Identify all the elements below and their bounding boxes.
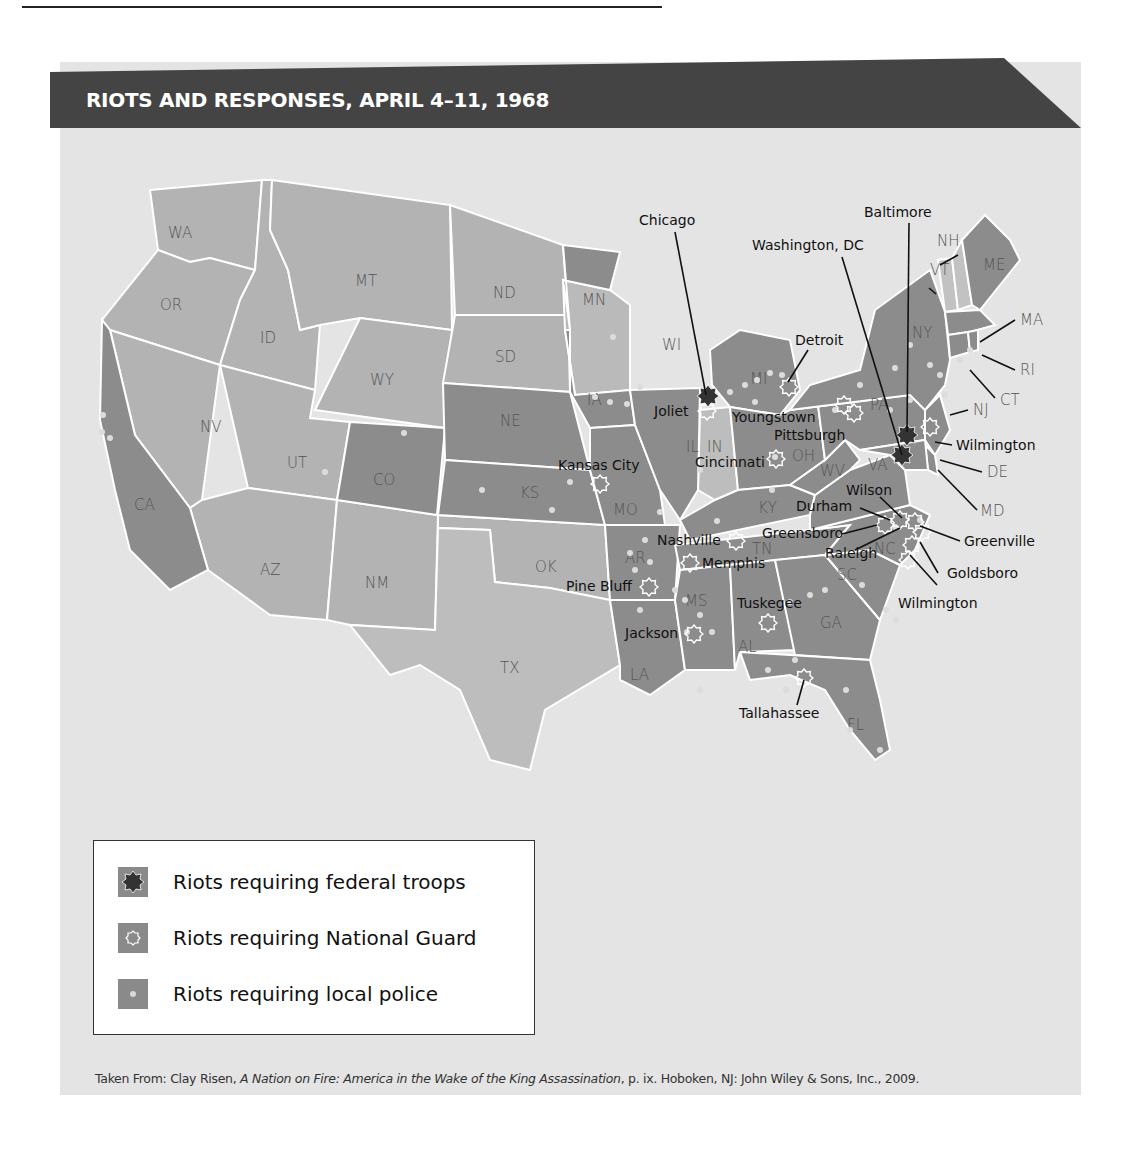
svg-text:NV: NV	[200, 418, 221, 436]
state-MS	[675, 565, 735, 670]
state-CT	[948, 332, 970, 358]
label-tallahassee: Tallahassee	[738, 705, 819, 721]
source-prefix: Taken From: Clay Risen,	[95, 1071, 240, 1086]
svg-text:MD: MD	[980, 502, 1005, 520]
svg-text:LA: LA	[630, 666, 649, 684]
state-AZ	[190, 488, 337, 620]
svg-text:GA: GA	[820, 614, 842, 632]
source-book-title: A Nation on Fire: America in the Wake of…	[240, 1071, 621, 1086]
legend-item-national-guard: Riots requiring National Guard	[118, 923, 477, 953]
state-CO	[337, 422, 445, 515]
svg-text:NE: NE	[500, 412, 521, 430]
svg-text:KY: KY	[758, 499, 777, 517]
label-pittsburgh: Pittsburgh	[774, 427, 845, 443]
label-pine-bluff: Pine Bluff	[566, 578, 632, 594]
us-map: WA OR CA ID NV MT WY UT CO AZ NM ND SD N…	[90, 170, 1070, 784]
label-goldsboro: Goldsboro	[947, 565, 1018, 581]
svg-text:VT: VT	[930, 261, 949, 279]
local-police-dot-icon	[118, 979, 148, 1009]
svg-text:SD: SD	[495, 348, 516, 366]
legend-item-federal-troops: Riots requiring federal troops	[118, 867, 466, 897]
label-kansas-city: Kansas City	[558, 457, 639, 473]
label-nashville: Nashville	[657, 532, 721, 548]
page-top-rule	[22, 6, 662, 8]
svg-text:NC: NC	[874, 540, 896, 558]
legend-label: Riots requiring federal troops	[173, 870, 466, 894]
label-tuskegee: Tuskegee	[736, 595, 802, 611]
svg-text:MO: MO	[613, 501, 638, 519]
svg-text:WV: WV	[820, 462, 845, 480]
state-NM	[327, 500, 438, 630]
svg-text:TX: TX	[500, 659, 519, 677]
svg-text:OH: OH	[792, 447, 815, 465]
svg-text:NH: NH	[937, 232, 960, 250]
label-greensboro: Greensboro	[762, 525, 843, 541]
label-raleigh: Raleigh	[825, 545, 877, 561]
svg-text:RI: RI	[1020, 361, 1035, 379]
label-chicago: Chicago	[639, 212, 695, 228]
map-title: RIOTS AND RESPONSES, APRIL 4–11, 1968	[86, 88, 549, 112]
svg-text:CO: CO	[373, 471, 395, 489]
svg-text:SC: SC	[837, 566, 857, 584]
svg-text:OR: OR	[160, 296, 182, 314]
federal-troops-star-icon	[118, 867, 148, 897]
map-legend: Riots requiring federal troops Riots req…	[93, 840, 535, 1035]
source-citation: Taken From: Clay Risen, A Nation on Fire…	[95, 1071, 919, 1086]
label-joliet: Joliet	[653, 403, 689, 419]
national-guard-star-outline-icon	[118, 923, 148, 953]
svg-text:NM: NM	[365, 574, 389, 592]
svg-text:MT: MT	[355, 272, 377, 290]
svg-text:CT: CT	[1000, 391, 1020, 409]
svg-text:MN: MN	[582, 291, 606, 309]
label-wilson: Wilson	[846, 482, 892, 498]
label-durham: Durham	[796, 498, 852, 514]
label-cincinnati: Cincinnati	[695, 454, 765, 470]
label-wilmington-de: Wilmington	[956, 437, 1036, 453]
svg-text:DE: DE	[987, 463, 1008, 481]
svg-text:UT: UT	[287, 454, 307, 472]
legend-item-local-police: Riots requiring local police	[118, 979, 438, 1009]
legend-label: Riots requiring local police	[173, 982, 438, 1006]
label-youngstown: Youngstown	[731, 409, 816, 425]
svg-text:VA: VA	[868, 456, 888, 474]
svg-text:AL: AL	[738, 638, 757, 656]
legend-label: Riots requiring National Guard	[173, 926, 477, 950]
source-suffix: , p. ix. Hoboken, NJ: John Wiley & Sons,…	[621, 1071, 919, 1086]
title-banner: RIOTS AND RESPONSES, APRIL 4–11, 1968	[50, 58, 1081, 128]
svg-text:CA: CA	[134, 496, 155, 514]
svg-text:NY: NY	[912, 324, 932, 342]
svg-text:ID: ID	[260, 329, 276, 347]
label-greenville: Greenville	[964, 533, 1035, 549]
svg-text:ME: ME	[983, 256, 1005, 274]
label-washington: Washington, DC	[752, 237, 864, 253]
svg-text:MS: MS	[685, 592, 707, 610]
state-MT	[270, 180, 452, 330]
svg-text:MA: MA	[1020, 311, 1043, 329]
svg-text:IA: IA	[587, 391, 602, 409]
svg-text:AZ: AZ	[260, 561, 281, 579]
svg-text:NJ: NJ	[973, 401, 989, 419]
svg-text:WY: WY	[370, 371, 394, 389]
label-memphis: Memphis	[702, 555, 765, 571]
svg-text:OK: OK	[535, 558, 557, 576]
svg-text:ND: ND	[493, 284, 516, 302]
svg-text:KS: KS	[520, 484, 539, 502]
svg-text:WI: WI	[662, 336, 681, 354]
label-jackson: Jackson	[624, 625, 678, 641]
svg-text:WA: WA	[168, 224, 192, 242]
label-baltimore: Baltimore	[864, 204, 932, 220]
label-detroit: Detroit	[795, 332, 844, 348]
label-wilmington-nc: Wilmington	[898, 595, 978, 611]
